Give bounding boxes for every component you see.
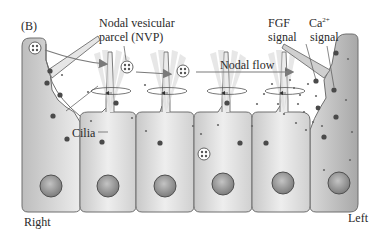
nvp-label-line1: Nodal vesicular [99, 17, 175, 29]
cilia-label: Cilia [72, 127, 95, 139]
fgf-label-line2: signal [268, 31, 297, 43]
ca-superscript: 2+ [322, 16, 329, 24]
embryonic-node-diagram: (B) Nodal vesicular parcel (NVP) Nodal f… [0, 0, 376, 240]
nodal-flow-label: Nodal flow [220, 59, 274, 71]
ca-label-line2: signal [310, 31, 339, 43]
cilia-rotation-ellipses [91, 88, 305, 95]
left-side-label: Left [348, 212, 368, 224]
panel-label: (B) [21, 20, 37, 32]
right-side-label: Right [24, 216, 51, 228]
fgf-label-line1: FGF [268, 17, 290, 29]
nvp-label-line2: parcel (NVP) [99, 31, 163, 43]
ca-label-line1: Ca2+ [309, 17, 330, 29]
ca-text: Ca [309, 16, 322, 30]
